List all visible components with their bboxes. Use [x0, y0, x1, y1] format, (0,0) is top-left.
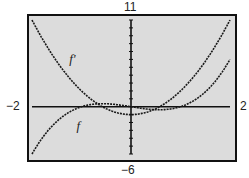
- ymin-label: −6: [121, 163, 135, 177]
- graphing-calculator-plot: f'f: [0, 0, 249, 178]
- curve-label: f': [69, 51, 76, 66]
- xmin-label: −2: [6, 99, 20, 113]
- plot-frame: [28, 15, 236, 161]
- xmax-label: 2: [240, 99, 247, 113]
- ymax-label: 11: [124, 0, 136, 14]
